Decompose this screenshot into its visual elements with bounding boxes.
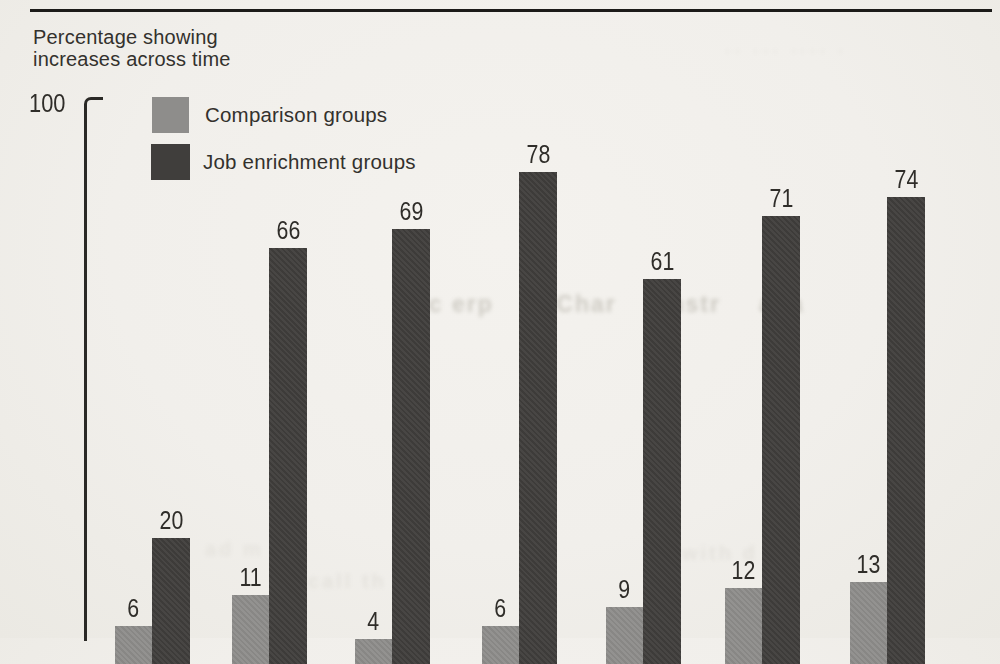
bar-job-enrichment-group-4 <box>519 172 557 664</box>
bar-job-enrichment-group-5 <box>643 279 681 664</box>
bar-job-enrichment-group-7-value-label: 74 <box>877 166 935 193</box>
bar-comparison-group-3 <box>355 639 392 664</box>
bar-job-enrichment-group-7 <box>887 197 925 664</box>
bar-comparison-group-4 <box>482 626 519 664</box>
bar-job-enrichment-group-3-value-label: 69 <box>382 198 440 225</box>
bar-job-enrichment-group-1-value-label: 20 <box>142 507 200 534</box>
bar-job-enrichment-group-6-value-label: 71 <box>752 185 810 212</box>
bar-comparison-group-7 <box>850 582 887 664</box>
bar-comparison-group-5 <box>606 607 643 664</box>
bar-comparison-group-1 <box>115 626 152 664</box>
bar-job-enrichment-group-2 <box>269 248 307 664</box>
bar-job-enrichment-group-1 <box>152 538 190 664</box>
bar-job-enrichment-group-3 <box>392 229 430 664</box>
bar-job-enrichment-group-4-value-label: 78 <box>509 141 567 168</box>
bar-job-enrichment-group-6 <box>762 216 800 664</box>
bar-comparison-group-2 <box>232 595 269 664</box>
bar-comparison-group-6 <box>725 588 762 664</box>
bar-job-enrichment-group-2-value-label: 66 <box>259 217 317 244</box>
bar-job-enrichment-group-5-value-label: 61 <box>633 248 691 275</box>
